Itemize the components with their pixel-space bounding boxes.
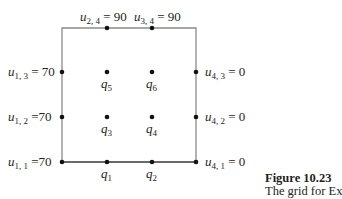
node-u13 [60, 70, 65, 75]
label-u42: u4, 2 = 0 [205, 110, 245, 124]
node-q1 [105, 160, 110, 165]
node-q2 [150, 160, 155, 165]
node-u11 [60, 160, 65, 165]
label-u24: u2, 4 = 90 [80, 10, 127, 24]
node-u41 [194, 160, 199, 165]
figure-caption: The grid for Ex [265, 184, 342, 199]
node-q6 [150, 70, 155, 75]
label-q6: q6 [146, 77, 157, 91]
label-u13: u1, 3 = 70 [8, 65, 55, 79]
node-u34 [150, 26, 155, 31]
label-u43: u4, 3 = 0 [205, 65, 245, 79]
node-q4 [150, 115, 155, 120]
node-u43 [194, 70, 199, 75]
label-q3: q3 [101, 122, 112, 136]
label-u34: u3, 4 = 90 [134, 10, 181, 24]
node-u12 [60, 115, 65, 120]
label-q5: q5 [101, 77, 112, 91]
label-q4: q4 [146, 122, 157, 136]
grid-frame [62, 28, 196, 162]
node-q3 [105, 115, 110, 120]
label-u41: u4, 1 = 0 [205, 155, 245, 169]
label-q2: q2 [146, 167, 157, 181]
label-q1: q1 [101, 167, 112, 181]
node-q5 [105, 70, 110, 75]
node-u42 [194, 115, 199, 120]
node-u24 [105, 26, 110, 31]
label-u11: u1, 1 =70 [8, 155, 52, 169]
label-u12: u1, 2 =70 [8, 110, 52, 124]
